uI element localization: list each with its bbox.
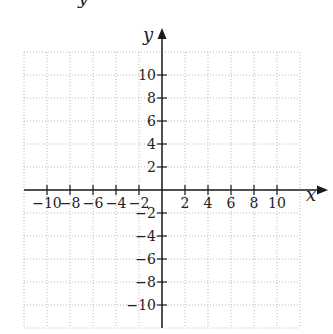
x-tick-label: 2	[181, 195, 190, 211]
x-axis-arrow-icon	[317, 186, 328, 195]
y-tick-label: −4	[135, 228, 156, 244]
y-axis-label: y	[142, 24, 154, 45]
coordinate-plane: y −10−8−6−4−2246810−10−8−6−4−2246810 x y	[0, 0, 333, 334]
y-tick-label: −10	[126, 297, 156, 313]
y-tick-label: 10	[138, 67, 156, 83]
x-tick-label: 6	[227, 195, 236, 211]
y-tick-label: 6	[147, 113, 156, 129]
cropped-label-fragment: y	[77, 0, 89, 8]
x-tick-label: −8	[60, 195, 81, 211]
y-tick-label: 4	[147, 136, 156, 152]
x-tick-label: −10	[32, 195, 62, 211]
y-tick-label: 2	[147, 159, 156, 175]
x-tick-label: −4	[106, 195, 127, 211]
x-tick-label: 10	[268, 195, 286, 211]
x-tick-label: 8	[250, 195, 259, 211]
y-tick-label: −6	[135, 251, 156, 267]
y-axis-arrow-icon	[158, 28, 167, 39]
x-axis-label: x	[306, 184, 316, 205]
x-tick-label: −6	[83, 195, 104, 211]
x-tick-label: 4	[204, 195, 213, 211]
y-tick-label: 8	[147, 90, 156, 106]
y-tick-label: −2	[135, 205, 156, 221]
y-tick-label: −8	[135, 274, 156, 290]
